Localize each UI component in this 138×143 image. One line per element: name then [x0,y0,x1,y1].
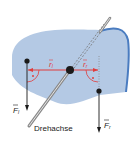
right-force-arrow-icon [97,127,101,133]
right-angle-left-dot [32,75,34,77]
left-force-arrow-icon [25,105,29,111]
label-force-left: Fl [13,106,20,115]
torque-diagram: rl rr Fl Fr Drehachse [0,0,138,143]
axis-label: Drehachse [34,124,73,133]
label-force-right: Fr [104,121,111,130]
right-angle-right-dot [92,77,94,79]
pivot-point [66,66,74,74]
